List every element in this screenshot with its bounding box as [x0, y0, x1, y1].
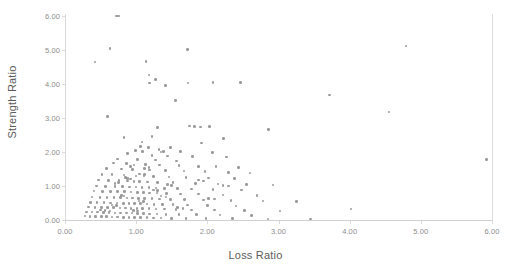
- data-point: [202, 199, 205, 202]
- data-point: [170, 184, 173, 187]
- data-point: [148, 192, 151, 195]
- data-point: [227, 185, 230, 188]
- data-point: [109, 210, 112, 213]
- data-point: [250, 214, 253, 217]
- x-tick-mark: [421, 221, 422, 224]
- x-tick-label: 1.00: [129, 227, 144, 236]
- data-point: [245, 183, 248, 186]
- data-point: [169, 146, 172, 149]
- y-tick-label: 3.00: [28, 114, 60, 123]
- data-point: [124, 176, 127, 179]
- data-point: [164, 84, 167, 87]
- x-tick-mark: [492, 221, 493, 224]
- data-point: [99, 196, 102, 199]
- data-point: [166, 155, 169, 158]
- data-point: [103, 201, 106, 204]
- data-point: [139, 145, 142, 148]
- data-point: [104, 185, 107, 188]
- data-point: [405, 45, 408, 48]
- data-point: [119, 212, 122, 215]
- data-point: [272, 184, 275, 187]
- data-point: [125, 162, 128, 165]
- data-point: [89, 201, 92, 204]
- data-point: [142, 191, 145, 194]
- data-point: [112, 206, 115, 209]
- data-point: [101, 190, 104, 193]
- data-point: [212, 188, 215, 191]
- y-tick-label: 4.00: [28, 80, 60, 89]
- y-axis-title: Strength Ratio: [6, 42, 18, 162]
- data-point: [134, 149, 137, 152]
- data-point: [100, 215, 103, 218]
- data-point: [215, 165, 218, 168]
- plot-area: [65, 16, 492, 220]
- data-point: [111, 216, 114, 219]
- data-point: [156, 181, 159, 184]
- x-tick-mark: [350, 221, 351, 224]
- data-point: [158, 164, 161, 167]
- data-point: [204, 170, 207, 173]
- data-point: [148, 166, 151, 169]
- data-point: [141, 186, 144, 189]
- data-point: [154, 159, 157, 162]
- data-point: [145, 60, 148, 63]
- data-point: [199, 126, 202, 129]
- data-point: [135, 175, 138, 178]
- data-point: [158, 198, 161, 201]
- data-point: [123, 195, 126, 198]
- data-point: [183, 198, 186, 201]
- data-point: [136, 212, 139, 215]
- data-point: [96, 211, 99, 214]
- data-point: [267, 218, 270, 221]
- data-point: [114, 185, 117, 188]
- data-point: [295, 200, 298, 203]
- data-point: [207, 177, 210, 180]
- data-point: [93, 190, 96, 193]
- x-tick-label: 0.00: [58, 227, 73, 236]
- data-point: [91, 196, 94, 199]
- data-point: [128, 202, 131, 205]
- data-point: [156, 189, 159, 192]
- data-point: [179, 193, 182, 196]
- data-point: [106, 206, 109, 209]
- data-point: [279, 210, 282, 213]
- data-point: [146, 203, 149, 206]
- data-point: [222, 194, 225, 197]
- data-point: [133, 180, 136, 183]
- data-point: [113, 196, 116, 199]
- data-point: [256, 194, 259, 197]
- data-point: [139, 216, 142, 219]
- data-point: [239, 81, 242, 84]
- data-point: [350, 208, 353, 211]
- data-point: [161, 203, 164, 206]
- data-point: [217, 183, 220, 186]
- data-point: [148, 74, 151, 77]
- data-point: [122, 216, 125, 219]
- data-point: [91, 211, 94, 214]
- data-point: [135, 186, 138, 189]
- data-point: [163, 187, 166, 190]
- data-point: [227, 171, 230, 174]
- data-point: [225, 156, 228, 159]
- data-point: [126, 180, 129, 183]
- data-point: [206, 204, 209, 207]
- data-point: [174, 99, 177, 102]
- data-point: [142, 212, 145, 215]
- data-point: [197, 179, 200, 182]
- y-tick-label: 1.00: [28, 182, 60, 191]
- data-point: [104, 209, 107, 212]
- data-point: [114, 212, 117, 215]
- data-point: [146, 216, 149, 219]
- data-point: [213, 198, 216, 201]
- x-tick-label: 5.00: [413, 227, 428, 236]
- data-point: [156, 126, 159, 129]
- data-point: [126, 197, 129, 200]
- data-point: [94, 215, 97, 218]
- data-point: [235, 205, 238, 208]
- data-point: [152, 217, 155, 220]
- data-point: [109, 190, 112, 193]
- x-tick-label: 2.00: [200, 227, 215, 236]
- data-point: [105, 215, 108, 218]
- data-point: [156, 192, 159, 195]
- data-point: [188, 125, 191, 128]
